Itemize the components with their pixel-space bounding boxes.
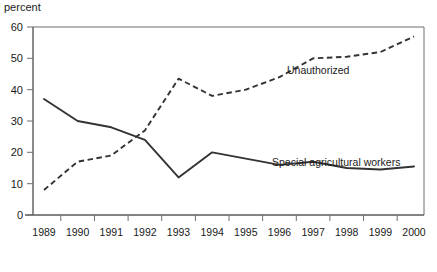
y-tick-label-50: 50 xyxy=(11,52,23,64)
x-tick-label-1993: 1993 xyxy=(167,226,191,238)
series-annotation-special-agricultural-workers: Special agricultural workers xyxy=(272,156,400,168)
x-tick-label-1994: 1994 xyxy=(201,226,225,238)
x-tick-label-1989: 1989 xyxy=(32,226,56,238)
y-tick-label-60: 60 xyxy=(11,21,23,33)
x-tick-label-2000: 2000 xyxy=(402,226,426,238)
x-tick-label-1999: 1999 xyxy=(369,226,393,238)
y-tick-label-0: 0 xyxy=(17,209,23,221)
x-tick-label-1996: 1996 xyxy=(268,226,292,238)
x-tick-label-1991: 1991 xyxy=(100,226,124,238)
line-chart-plot: 0 10 20 30 40 50 60 19891990199119921993… xyxy=(0,0,437,272)
y-tick-label-10: 10 xyxy=(11,178,23,190)
series-annotation-unauthorized: Unauthorized xyxy=(287,64,350,76)
x-tick-label-1995: 1995 xyxy=(234,226,258,238)
y-axis-tick-labels: 0 10 20 30 40 50 60 xyxy=(11,21,23,221)
y-tick-label-30: 30 xyxy=(11,115,23,127)
x-axis-tick-labels: 1989199019911992199319941995199619971998… xyxy=(32,226,426,238)
x-tick-label-1998: 1998 xyxy=(335,226,359,238)
chart-container: percent 0 10 20 30 40 50 60 198919 xyxy=(0,0,437,272)
x-axis-ticks xyxy=(61,215,397,221)
y-axis-ticks xyxy=(27,27,33,215)
x-tick-label-1997: 1997 xyxy=(301,226,325,238)
y-tick-label-40: 40 xyxy=(11,84,23,96)
x-tick-label-1990: 1990 xyxy=(66,226,90,238)
x-tick-label-1992: 1992 xyxy=(133,226,157,238)
y-tick-label-20: 20 xyxy=(11,146,23,158)
